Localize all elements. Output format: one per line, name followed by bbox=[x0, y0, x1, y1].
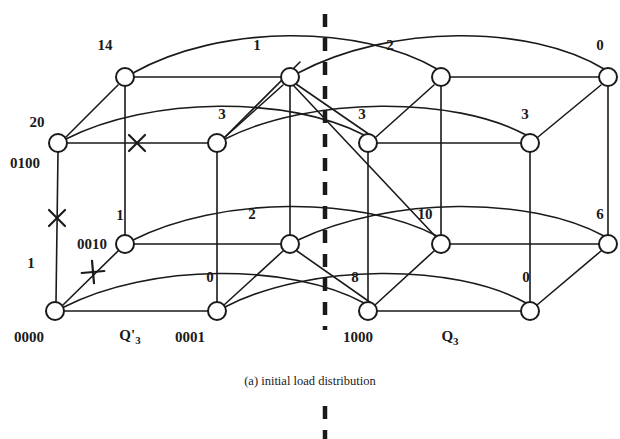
edge-diag-bot0-low0 bbox=[63, 251, 118, 305]
graph-node bbox=[116, 68, 134, 86]
edge-vert-mid0-bot0 bbox=[56, 152, 58, 302]
graph-node bbox=[521, 134, 539, 152]
graph-node bbox=[521, 302, 539, 320]
node-address-label: 1000 bbox=[343, 329, 373, 346]
node-address-label: 0001 bbox=[175, 329, 205, 346]
node-load-label: 0 bbox=[596, 37, 604, 54]
graph-node bbox=[432, 68, 450, 86]
node-load-label: 1 bbox=[253, 37, 261, 54]
graph-node bbox=[49, 134, 67, 152]
node-load-label: 1 bbox=[27, 255, 35, 272]
subcube-label-Q3: Q3 bbox=[441, 328, 458, 347]
arc-low-1-3 bbox=[298, 206, 604, 240]
figure-caption: (a) initial load distribution bbox=[0, 374, 620, 389]
arc-top-1-3 bbox=[298, 36, 604, 73]
edge-diag-bot1-low1 bbox=[224, 251, 283, 305]
edge-diag-mid3-top3 bbox=[538, 85, 601, 137]
graph-node bbox=[46, 302, 64, 320]
node-load-label: 0 bbox=[206, 269, 214, 286]
node-load-label: 3 bbox=[218, 106, 226, 123]
node-load-label: 3 bbox=[358, 106, 366, 123]
edge-diag-mid2-top2 bbox=[376, 85, 434, 137]
graph-node bbox=[208, 302, 226, 320]
node-load-label: 1 bbox=[116, 207, 124, 224]
node-load-label: 8 bbox=[351, 269, 359, 286]
subcube-label-Q3_prime: Q'3 bbox=[119, 327, 140, 346]
node-load-label: 2 bbox=[248, 206, 256, 223]
node-load-label: 2 bbox=[386, 37, 394, 54]
node-address-label: 0100 bbox=[10, 155, 40, 172]
node-load-label: 3 bbox=[521, 106, 529, 123]
node-load-label: 20 bbox=[30, 114, 45, 131]
graph-node bbox=[432, 235, 450, 253]
node-address-label: 0000 bbox=[14, 329, 44, 346]
edge-diag-bot3-low3 bbox=[537, 251, 601, 305]
edge-diag-mid0-top0 bbox=[66, 85, 118, 137]
cut-diagonal-low-icon bbox=[82, 261, 105, 284]
graph-node bbox=[208, 134, 226, 152]
node-load-label: 14 bbox=[98, 37, 113, 54]
graph-node bbox=[359, 302, 377, 320]
graph-node bbox=[359, 134, 377, 152]
edge-diag-bot2-low2 bbox=[375, 251, 434, 305]
figure-initial-load-distribution: 141202033311210608001000010000000011000Q… bbox=[0, 0, 620, 439]
node-load-label: 10 bbox=[418, 206, 433, 223]
graph-node bbox=[599, 235, 617, 253]
node-address-label: 0010 bbox=[77, 236, 107, 253]
edge-cross-bot2-low1 bbox=[297, 251, 374, 305]
arc-mid-1-3 bbox=[225, 106, 526, 139]
node-load-label: 6 bbox=[596, 206, 604, 223]
graph-node bbox=[599, 68, 617, 86]
arc-bot-1-3 bbox=[225, 273, 526, 307]
graph-node bbox=[281, 235, 299, 253]
node-load-label: 0 bbox=[522, 269, 530, 286]
graph-node bbox=[116, 235, 134, 253]
graph-node bbox=[281, 68, 299, 86]
